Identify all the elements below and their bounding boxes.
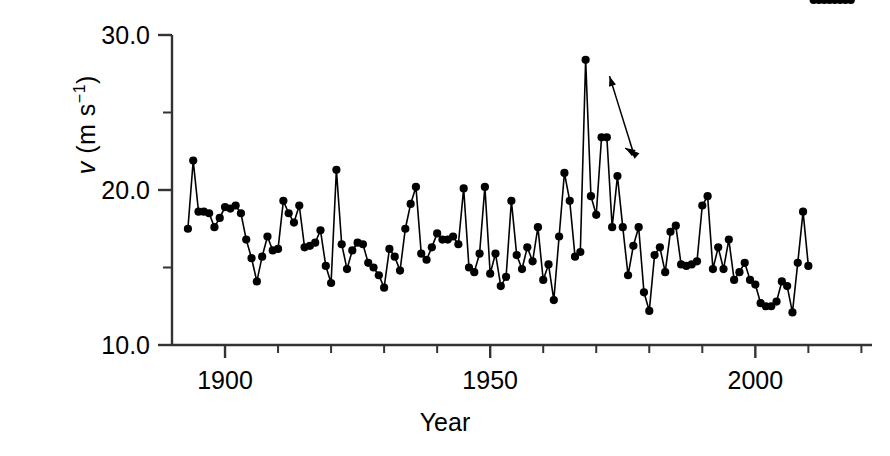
data-point [247, 254, 255, 262]
data-point [481, 183, 489, 191]
x-tick-label: 1950 [462, 366, 518, 394]
data-point [385, 245, 393, 253]
data-point [258, 253, 266, 261]
data-point [847, 0, 855, 4]
data-point [380, 284, 388, 292]
data-point [205, 209, 213, 217]
data-point [359, 240, 367, 248]
data-point [566, 197, 574, 205]
y-axis-exponent: −1 [71, 84, 88, 103]
data-point [624, 271, 632, 279]
chart-figure: v (m s−1) Year 19001950200010.020.030.0 [0, 0, 890, 456]
data-point [216, 214, 224, 222]
data-point [237, 209, 245, 217]
data-point [470, 268, 478, 276]
data-point [454, 240, 462, 248]
data-point [603, 133, 611, 141]
data-point [290, 218, 298, 226]
data-point [242, 236, 250, 244]
data-point [417, 249, 425, 257]
data-point [497, 282, 505, 290]
data-point [518, 265, 526, 273]
data-point [576, 248, 584, 256]
data-point [704, 192, 712, 200]
x-axis-title: Year [0, 408, 890, 437]
data-point [338, 240, 346, 248]
annotation-arrow-shaft [610, 76, 634, 153]
data-point [661, 268, 669, 276]
data-point [582, 56, 590, 64]
data-point [539, 276, 547, 284]
data-point [523, 243, 531, 251]
data-point [592, 211, 600, 219]
data-point [656, 243, 664, 251]
data-point [719, 265, 727, 273]
plot-area: 19001950200010.020.030.0 [0, 0, 890, 456]
data-point [507, 197, 515, 205]
data-point [555, 232, 563, 240]
data-point [502, 273, 510, 281]
data-point [693, 257, 701, 265]
data-point [804, 262, 812, 270]
data-point [714, 243, 722, 251]
data-point [210, 223, 218, 231]
data-point [513, 251, 521, 259]
axis-tick-labels: 19001950200010.020.030.0 [101, 21, 783, 394]
data-point [263, 232, 271, 240]
data-point [799, 208, 807, 216]
data-point [412, 183, 420, 191]
data-point [672, 222, 680, 230]
data-point [332, 166, 340, 174]
y-tick-label: 30.0 [101, 21, 150, 49]
data-point [311, 239, 319, 247]
data-point [391, 253, 399, 261]
data-point [794, 259, 802, 267]
data-point [544, 260, 552, 268]
data-point [279, 197, 287, 205]
x-tick-label: 2000 [728, 366, 784, 394]
arrow-annotation [609, 76, 639, 159]
data-point [375, 271, 383, 279]
annotation-arrow-head [609, 76, 616, 87]
data-point [475, 249, 483, 257]
data-point [788, 308, 796, 316]
data-point [295, 201, 303, 209]
y-tick-label: 20.0 [101, 176, 150, 204]
y-axis-symbol: v [72, 161, 100, 174]
data-point [274, 245, 282, 253]
data-point [316, 226, 324, 234]
y-tick-label: 10.0 [101, 331, 150, 359]
data-point [407, 200, 415, 208]
y-axis-title: v (m s−1) [71, 35, 100, 215]
data-point [772, 298, 780, 306]
data-point [529, 257, 537, 265]
data-point [783, 282, 791, 290]
data-point [401, 225, 409, 233]
data-point [428, 243, 436, 251]
data-point [232, 201, 240, 209]
data-point [534, 223, 542, 231]
data-point [730, 276, 738, 284]
data-point [491, 249, 499, 257]
data-point [327, 279, 335, 287]
data-point [635, 223, 643, 231]
data-point [698, 201, 706, 209]
y-axis-unit-open: (m s [72, 103, 100, 161]
data-point [486, 270, 494, 278]
data-point [613, 172, 621, 180]
data-point [322, 262, 330, 270]
data-point [650, 251, 658, 259]
data-point [460, 184, 468, 192]
data-point [608, 223, 616, 231]
data-point [645, 307, 653, 315]
data-line [188, 60, 808, 313]
data-point [629, 242, 637, 250]
data-point [619, 223, 627, 231]
data-point [184, 225, 192, 233]
data-point [396, 267, 404, 275]
data-point [587, 192, 595, 200]
data-point [422, 256, 430, 264]
data-point [348, 246, 356, 254]
data-point [735, 268, 743, 276]
data-point [285, 209, 293, 217]
